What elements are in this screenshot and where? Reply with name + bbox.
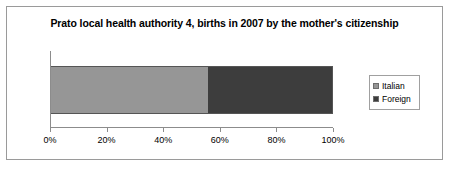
x-axis-line <box>50 127 333 128</box>
legend-swatch-icon-foreign <box>373 96 379 102</box>
x-axis-tick-label-3: 60% <box>211 135 229 145</box>
x-axis-tick-label-2: 40% <box>154 135 172 145</box>
legend-item-foreign: Foreign <box>373 93 416 105</box>
legend-label-foreign: Foreign <box>382 93 411 105</box>
x-axis-tick-label-1: 20% <box>98 135 116 145</box>
x-axis-tick-5 <box>333 128 334 132</box>
x-axis-tick-0 <box>50 128 51 132</box>
bar-segment-italian <box>51 67 208 113</box>
stacked-bar <box>50 66 333 114</box>
chart-frame: Prato local health authority 4, births i… <box>6 6 443 160</box>
x-axis-tick-1 <box>107 128 108 132</box>
plot-area <box>50 60 333 114</box>
x-axis-tick-label-4: 80% <box>267 135 285 145</box>
x-axis-tick-label-0: 0% <box>43 135 56 145</box>
x-axis-tick-2 <box>163 128 164 132</box>
x-axis-tick-3 <box>220 128 221 132</box>
x-axis-tick-label-5: 100% <box>321 135 344 145</box>
bar-segment-foreign <box>208 67 332 113</box>
x-axis-tick-4 <box>276 128 277 132</box>
chart-title: Prato local health authority 4, births i… <box>7 17 442 29</box>
legend-label-italian: Italian <box>382 80 405 92</box>
chart-legend: Italian Foreign <box>369 75 420 110</box>
y-axis-line <box>50 51 51 128</box>
legend-item-italian: Italian <box>373 80 416 92</box>
legend-swatch-icon-italian <box>373 83 379 89</box>
